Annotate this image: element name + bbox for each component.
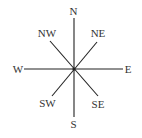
- label-west: W: [13, 63, 24, 75]
- center-point: [72, 67, 75, 70]
- compass-rose: N NE E SE S SW W NW: [0, 0, 142, 138]
- label-north: N: [70, 5, 78, 17]
- label-northwest: NW: [38, 27, 57, 39]
- label-south: S: [70, 118, 76, 130]
- label-southwest: SW: [39, 97, 56, 109]
- label-southeast: SE: [92, 98, 105, 110]
- label-northeast: NE: [91, 27, 106, 39]
- label-east: E: [125, 63, 132, 75]
